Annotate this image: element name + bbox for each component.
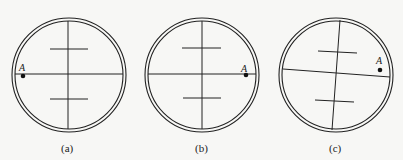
panel-c: A (c) bbox=[279, 18, 393, 155]
point-a-label: A bbox=[375, 55, 383, 66]
point-a-marker bbox=[21, 74, 26, 79]
vertical-crosshair bbox=[332, 20, 340, 130]
point-a-marker bbox=[378, 68, 383, 73]
panel-b: A (b) bbox=[145, 18, 259, 155]
outer-ring bbox=[12, 18, 126, 132]
panel-label-c: (c) bbox=[329, 142, 342, 155]
panel-a: A (a) bbox=[12, 18, 126, 155]
panel-label-a: (a) bbox=[61, 142, 74, 155]
inner-ring bbox=[15, 21, 123, 129]
point-a-label: A bbox=[240, 63, 248, 74]
panel-label-b: (b) bbox=[195, 142, 208, 155]
point-a-label: A bbox=[18, 62, 26, 73]
reticle-figure: A (a) A (b) A (c) bbox=[0, 0, 403, 160]
